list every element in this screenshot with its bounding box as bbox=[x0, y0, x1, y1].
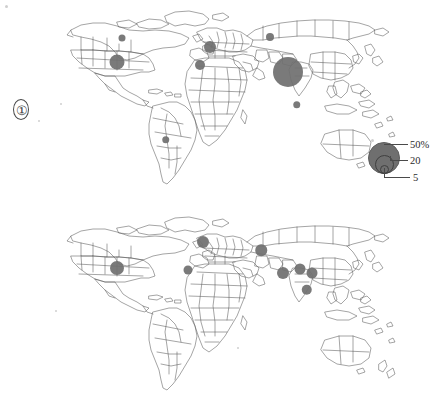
legend-leader-20 bbox=[390, 160, 408, 161]
legend-leader-20-v bbox=[390, 156, 391, 161]
marker-layer-1 bbox=[57, 6, 397, 196]
world-map-2 bbox=[57, 212, 397, 402]
marker-taiwan-se-asia-2[interactable] bbox=[302, 285, 313, 296]
panel-label-1-text: ① bbox=[16, 104, 28, 117]
marker-canada-1[interactable] bbox=[118, 35, 125, 42]
marker-japan-2[interactable] bbox=[307, 267, 318, 278]
world-map-1 bbox=[57, 6, 397, 196]
scan-speck bbox=[371, 139, 374, 142]
marker-northern-europe-2[interactable] bbox=[197, 236, 209, 248]
marker-western-europe-1[interactable] bbox=[195, 60, 205, 70]
legend-circle-stack bbox=[368, 142, 402, 176]
legend-label-50: 50% bbox=[410, 140, 429, 151]
legend-label-5: 5 bbox=[413, 173, 418, 184]
legend-leader-50 bbox=[384, 144, 408, 145]
marker-china-2[interactable] bbox=[277, 267, 289, 279]
scan-speck bbox=[237, 347, 239, 349]
proportional-symbol-legend: 50% 20 5 bbox=[368, 142, 443, 190]
marker-southeast-asia-1[interactable] bbox=[293, 101, 301, 109]
marker-united-states-2[interactable] bbox=[110, 261, 124, 275]
marker-korea-2[interactable] bbox=[295, 264, 306, 275]
marker-brazil-1[interactable] bbox=[162, 136, 170, 144]
map-panel-2: ② bbox=[0, 206, 445, 412]
legend-leader-5-v bbox=[384, 168, 385, 178]
legend-leader-5 bbox=[384, 177, 410, 178]
marker-russia-1[interactable] bbox=[266, 33, 274, 41]
legend-label-20: 20 bbox=[410, 156, 421, 167]
map-panel-1: ① bbox=[0, 0, 445, 206]
marker-layer-2 bbox=[57, 212, 397, 402]
scan-speck bbox=[60, 103, 62, 105]
marker-united-states-1[interactable] bbox=[109, 55, 124, 70]
scan-speck bbox=[55, 310, 57, 312]
world-map-figure: ① bbox=[0, 0, 445, 412]
marker-western-europe-2[interactable] bbox=[183, 265, 192, 274]
marker-russia-2[interactable] bbox=[255, 244, 267, 256]
scan-speck bbox=[5, 5, 8, 8]
panel-label-1: ① bbox=[12, 98, 32, 122]
marker-china-1[interactable] bbox=[273, 57, 303, 87]
scan-speck bbox=[38, 120, 40, 122]
marker-northwest-europe-1[interactable] bbox=[204, 41, 216, 53]
